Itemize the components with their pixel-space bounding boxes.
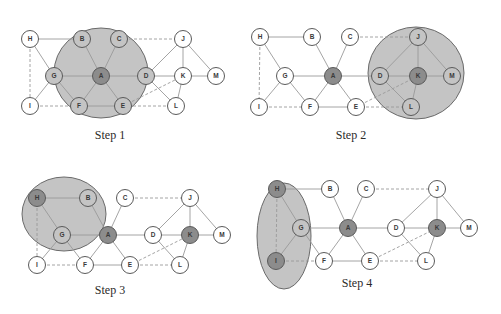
svg-text:C: C <box>117 35 122 42</box>
step-2-caption: Step 2 <box>336 128 366 143</box>
node-L: L <box>172 257 189 274</box>
node-J: J <box>182 190 199 207</box>
svg-text:I: I <box>275 257 277 264</box>
svg-text:L: L <box>178 261 182 268</box>
node-B: B <box>304 29 321 46</box>
node-G: G <box>54 227 71 244</box>
svg-text:F: F <box>83 261 87 268</box>
svg-text:L: L <box>174 102 178 109</box>
svg-text:D: D <box>151 231 156 238</box>
node-F: F <box>77 257 94 274</box>
node-K: K <box>182 227 199 244</box>
panel-step-1: ABCDEFGHIJKLM <box>22 28 225 118</box>
node-G: G <box>46 68 63 85</box>
svg-text:M: M <box>466 224 471 231</box>
svg-text:I: I <box>258 103 260 110</box>
svg-text:I: I <box>36 261 38 268</box>
node-I: I <box>29 257 46 274</box>
svg-text:G: G <box>59 231 64 238</box>
node-F: F <box>71 98 88 115</box>
node-D: D <box>145 227 162 244</box>
svg-text:A: A <box>346 224 351 231</box>
svg-text:I: I <box>29 102 31 109</box>
svg-text:A: A <box>331 72 336 79</box>
svg-text:H: H <box>35 194 40 201</box>
svg-text:C: C <box>123 194 128 201</box>
svg-text:E: E <box>121 102 126 109</box>
node-B: B <box>80 190 97 207</box>
panel-step-4: ABCDEFGHIJKLM <box>257 181 478 290</box>
node-B: B <box>74 31 91 48</box>
node-J: J <box>410 29 427 46</box>
node-L: L <box>418 253 435 270</box>
node-L: L <box>168 98 185 115</box>
svg-text:H: H <box>258 33 263 40</box>
node-J: J <box>429 181 446 198</box>
svg-text:J: J <box>181 35 185 42</box>
svg-text:A: A <box>106 231 111 238</box>
node-I: I <box>251 99 268 116</box>
svg-text:B: B <box>310 33 315 40</box>
node-F: F <box>316 253 333 270</box>
node-M: M <box>444 68 461 85</box>
svg-text:G: G <box>298 224 303 231</box>
svg-text:K: K <box>435 224 440 231</box>
node-E: E <box>362 253 379 270</box>
node-A: A <box>93 68 110 85</box>
node-C: C <box>111 31 128 48</box>
node-A: A <box>325 68 342 85</box>
node-G: G <box>277 68 294 85</box>
svg-text:M: M <box>219 231 224 238</box>
svg-text:J: J <box>188 194 192 201</box>
node-M: M <box>214 227 231 244</box>
svg-text:C: C <box>364 185 369 192</box>
svg-text:E: E <box>354 103 359 110</box>
panel-step-2: ABCDEFGHIJKLM <box>251 27 465 119</box>
svg-text:D: D <box>378 72 383 79</box>
svg-text:K: K <box>181 72 186 79</box>
node-B: B <box>322 181 339 198</box>
svg-text:E: E <box>368 257 373 264</box>
svg-text:B: B <box>328 185 333 192</box>
node-I: I <box>268 253 285 270</box>
node-K: K <box>429 220 446 237</box>
node-H: H <box>269 181 286 198</box>
node-K: K <box>410 68 427 85</box>
node-L: L <box>403 99 420 116</box>
node-F: F <box>302 99 319 116</box>
step-diagram-canvas: ABCDEFGHIJKLMABCDEFGHIJKLMABCDEFGHIJKLMA… <box>0 0 501 314</box>
node-D: D <box>372 68 389 85</box>
svg-text:B: B <box>86 194 91 201</box>
node-M: M <box>208 68 225 85</box>
node-M: M <box>461 220 478 237</box>
svg-text:E: E <box>128 261 133 268</box>
node-D: D <box>138 68 155 85</box>
node-E: E <box>115 98 132 115</box>
svg-text:D: D <box>144 72 149 79</box>
node-K: K <box>175 68 192 85</box>
svg-text:F: F <box>308 103 312 110</box>
node-C: C <box>342 29 359 46</box>
svg-text:G: G <box>282 72 287 79</box>
node-E: E <box>122 257 139 274</box>
svg-text:A: A <box>99 72 104 79</box>
svg-text:J: J <box>416 33 420 40</box>
step-1-caption: Step 1 <box>95 128 125 143</box>
svg-text:K: K <box>188 231 193 238</box>
node-C: C <box>358 181 375 198</box>
node-A: A <box>340 220 357 237</box>
svg-text:B: B <box>80 35 85 42</box>
svg-text:M: M <box>213 72 218 79</box>
svg-text:L: L <box>409 103 413 110</box>
node-A: A <box>100 227 117 244</box>
node-J: J <box>175 31 192 48</box>
step-3-caption: Step 3 <box>95 283 125 298</box>
svg-text:G: G <box>51 72 56 79</box>
node-E: E <box>348 99 365 116</box>
node-I: I <box>22 98 39 115</box>
svg-text:F: F <box>322 257 326 264</box>
svg-text:H: H <box>28 35 33 42</box>
svg-text:H: H <box>275 185 280 192</box>
edge-H-I <box>259 37 260 107</box>
svg-text:M: M <box>449 72 454 79</box>
